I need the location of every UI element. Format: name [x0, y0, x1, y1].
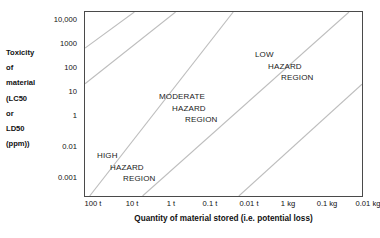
x-axis-tick-labels: 100 t 10 t 1 t 0.1 t 0.01 t 1 kg 0.1 kg …	[84, 199, 363, 211]
x-tick-label: 0.01 kg	[356, 199, 380, 209]
plot-area: LOW HAZARD REGION MODERATE HAZARD REGION…	[84, 11, 363, 197]
boundary-line-1	[85, 12, 134, 48]
boundary-line-2	[85, 12, 176, 84]
x-tick-label: 0.1 kg	[317, 199, 338, 209]
annotation-line: MODERATE	[159, 91, 217, 103]
x-tick-label: 1 t	[167, 199, 175, 209]
annotation-line: HIGH	[97, 150, 155, 162]
annotation-high-hazard-region: HIGH HAZARD REGION	[97, 150, 155, 185]
y-axis-tick-labels: 10,000 1000 100 10 1 0.01 0.001	[28, 11, 80, 197]
annotation-moderate-hazard-region: MODERATE HAZARD REGION	[159, 91, 217, 126]
x-tick-label: 1 kg	[281, 199, 295, 209]
x-tick-label: 100 t	[85, 199, 102, 209]
annotation-line: HAZARD	[97, 162, 155, 174]
annotation-line: LOW	[255, 49, 313, 61]
x-tick-label: 0.1 t	[203, 199, 218, 209]
annotation-line: REGION	[159, 114, 217, 126]
y-tick-label: 10	[69, 87, 77, 96]
x-tick-label: 0.01 t	[240, 199, 259, 209]
y-tick-label: 100	[64, 63, 77, 72]
x-axis-title: Quantity of material stored (i.e. potent…	[84, 214, 363, 223]
annotation-line: REGION	[255, 72, 313, 84]
annotation-line: REGION	[97, 173, 155, 185]
annotation-low-hazard-region: LOW HAZARD REGION	[255, 49, 313, 84]
y-tick-label: 10,000	[54, 15, 77, 24]
annotation-line: HAZARD	[159, 103, 217, 115]
y-tick-label: 0.01	[62, 142, 77, 151]
annotation-line: HAZARD	[255, 61, 313, 73]
x-tick-label: 10 t	[126, 199, 139, 209]
boundary-line-5	[239, 84, 362, 196]
y-tick-label: 1000	[60, 39, 77, 48]
y-tick-label: 1	[73, 111, 77, 120]
y-tick-label: 0.001	[58, 173, 77, 182]
